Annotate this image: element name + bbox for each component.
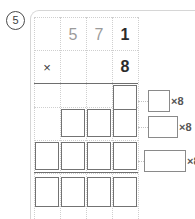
answer-box-row3-tens[interactable] [87,142,111,170]
question-number-badge: 5 [6,11,25,30]
grid-row-line [34,173,138,174]
grid-row-line [34,140,138,141]
answer-box-total-tens[interactable] [87,177,111,207]
carry-label-3: ×8 [187,156,195,167]
answer-box-row2-ones[interactable] [87,109,111,137]
answer-box-row3-ones[interactable] [113,142,137,170]
sum-rule-line [34,172,138,173]
answer-box-total-thousands[interactable] [35,177,59,207]
multiplication-rule-line [34,83,138,84]
carry-annotation-1: ×8 [148,90,184,112]
multiplier-digit-ones: 8 [112,59,138,75]
grid-row-line [34,50,138,51]
multiplicand-digit-tens: 7 [86,27,112,43]
grid-row-line [34,17,138,18]
answer-box-row2-extra[interactable] [113,109,137,137]
carry-label-1: ×8 [171,96,184,107]
answer-box-row3-hundreds[interactable] [61,142,85,170]
carry-connector-1 [138,101,148,102]
answer-box-row3-thousands[interactable] [35,142,59,170]
multiplicand-digit-hundreds: 5 [60,27,86,43]
carry-annotation-3: ×8 [144,150,195,172]
carry-input-box-3[interactable] [144,150,186,172]
grid-column-line [138,17,139,219]
carry-input-box-2[interactable] [148,116,178,138]
multiplicand-digit-ones: 1 [112,27,138,43]
answer-box-total-hundreds[interactable] [61,177,85,207]
carry-connector-2 [138,127,148,128]
answer-box-total-ones[interactable] [113,177,137,207]
working-grid: 5 7 1 × 8 [34,17,138,219]
multiplication-operator: × [34,61,60,74]
carry-label-2: ×8 [179,122,192,133]
answer-box-row2-tens[interactable] [61,109,85,137]
carry-annotation-2: ×8 [148,116,192,138]
carry-input-box-1[interactable] [148,90,170,112]
